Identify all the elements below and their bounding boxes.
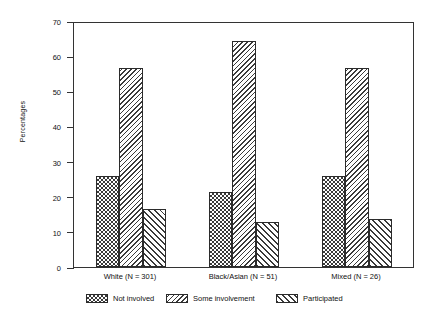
legend-swatch-icon xyxy=(86,294,108,303)
legend-swatch-icon xyxy=(276,294,298,303)
bar xyxy=(322,176,346,267)
bar xyxy=(369,219,393,267)
plot-area xyxy=(73,22,414,268)
y-axis-tick-label: 40 xyxy=(21,123,61,132)
bar xyxy=(209,192,233,267)
bar xyxy=(345,68,369,267)
chart-legend: Not involvedSome involvementParticipated xyxy=(0,294,435,308)
legend-item[interactable]: Participated xyxy=(276,294,343,303)
bar xyxy=(96,176,120,267)
bar xyxy=(119,68,143,267)
y-axis-tick-label: 0 xyxy=(21,264,61,273)
bar-chart: Percentages 010203040506070 White (N = 3… xyxy=(0,0,435,325)
legend-label: Participated xyxy=(303,294,343,303)
legend-swatch-icon xyxy=(166,294,188,303)
y-axis-tick-label: 70 xyxy=(21,18,61,27)
y-axis-tick-label: 20 xyxy=(21,193,61,202)
bar xyxy=(143,209,167,267)
bar xyxy=(256,222,280,267)
x-axis-category-label: Mixed (N = 26) xyxy=(286,272,426,281)
legend-label: Not involved xyxy=(113,294,154,303)
legend-item[interactable]: Some involvement xyxy=(166,294,255,303)
y-axis-tick-label: 10 xyxy=(21,228,61,237)
legend-item[interactable]: Not involved xyxy=(86,294,154,303)
y-axis-tick-label: 60 xyxy=(21,53,61,62)
legend-label: Some involvement xyxy=(193,294,255,303)
y-axis-tick-label: 50 xyxy=(21,88,61,97)
bar xyxy=(232,41,256,267)
y-axis-tick-label: 30 xyxy=(21,158,61,167)
